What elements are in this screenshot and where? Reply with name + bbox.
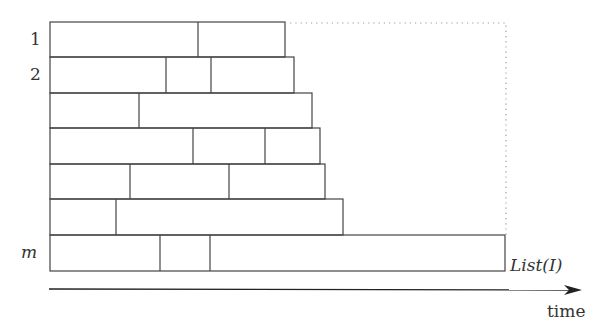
machine-row bbox=[50, 22, 285, 57]
list-label: List(I) bbox=[510, 257, 562, 274]
dotted-bound-line bbox=[285, 23, 506, 235]
dotted-bound-box bbox=[285, 23, 506, 235]
row-label-2: 2 bbox=[30, 66, 41, 83]
job-row-outline bbox=[50, 128, 320, 164]
row-label-1: 1 bbox=[30, 31, 41, 48]
machine-row bbox=[50, 235, 505, 271]
machine-row bbox=[50, 199, 343, 235]
job-row-outline bbox=[50, 235, 505, 271]
machine-row bbox=[50, 57, 294, 93]
machine-row bbox=[50, 128, 320, 164]
machine-rows bbox=[50, 22, 505, 271]
machine-row bbox=[50, 164, 325, 199]
time-axis bbox=[49, 285, 582, 295]
machine-row bbox=[50, 93, 312, 128]
job-row-outline bbox=[50, 57, 294, 93]
row-label-m: m bbox=[21, 244, 37, 261]
schedule-diagram bbox=[0, 0, 616, 336]
time-axis-label: time bbox=[547, 303, 585, 320]
job-row-outline bbox=[50, 22, 285, 57]
job-row-outline bbox=[50, 93, 312, 128]
time-axis-line bbox=[49, 289, 576, 290]
job-row-outline bbox=[50, 199, 343, 235]
job-row-outline bbox=[50, 164, 325, 199]
